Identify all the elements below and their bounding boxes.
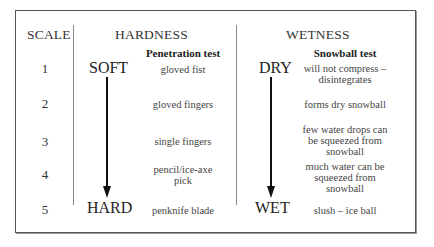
wetness-label-wet: WET xyxy=(255,199,290,217)
hardness-cell: gloved fingers xyxy=(143,99,223,110)
scale-number: 1 xyxy=(25,61,65,77)
header-hardness: HARDNESS xyxy=(115,27,188,43)
wetness-cell: slush – ice ball xyxy=(297,205,393,216)
header-wetness: WETNESS xyxy=(286,27,350,43)
wetness-cell: will not compress – disintegrates xyxy=(303,63,387,85)
scale-number: 2 xyxy=(25,96,65,112)
subheader-snowball-test: Snowball test xyxy=(305,47,385,59)
wetness-cell: much water can be squeezed from snowball xyxy=(302,161,388,194)
wetness-label-dry: DRY xyxy=(259,59,292,77)
table-frame xyxy=(15,10,416,233)
hardness-cell: pencil/ice-axe pick xyxy=(148,164,218,186)
column-divider-wetness xyxy=(236,25,237,205)
hardness-cell: gloved fist xyxy=(143,64,223,75)
subheader-penetration-test: Penetration test xyxy=(143,47,223,59)
wetness-cell: forms dry snowball xyxy=(297,99,393,110)
wetness-cell: few water drops can be squeezed from sno… xyxy=(302,124,388,157)
hardness-cell: penknife blade xyxy=(143,205,223,216)
scale-number: 4 xyxy=(25,167,65,183)
arrow-down-icon xyxy=(267,186,275,198)
header-scale: SCALE xyxy=(27,27,71,43)
scale-number: 3 xyxy=(25,134,65,150)
arrow-down-icon xyxy=(103,186,111,198)
hardness-label-hard: HARD xyxy=(87,199,132,217)
arrow-down-icon xyxy=(270,77,272,189)
arrow-down-icon xyxy=(106,77,108,189)
column-divider-scale xyxy=(73,25,74,205)
hardness-label-soft: SOFT xyxy=(89,59,128,77)
hardness-cell: single fingers xyxy=(143,136,223,147)
scale-number: 5 xyxy=(25,202,65,218)
